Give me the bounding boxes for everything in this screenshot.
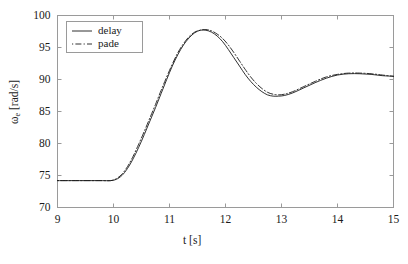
x-tick-label: 9: [45, 214, 71, 226]
y-tick-label: 75: [25, 170, 51, 182]
y-tick-label: 100: [25, 10, 51, 22]
y-tick-label: 70: [25, 202, 51, 214]
x-tick-label: 13: [269, 214, 295, 226]
y-axis-title-symbol: ω: [8, 116, 20, 124]
legend-label-delay: delay: [98, 25, 122, 36]
y-tick-label: 95: [25, 42, 51, 54]
legend-label-pade: pade: [98, 38, 119, 49]
chart-figure: 707580859095100 9101112131415 t [s] ωe […: [0, 0, 408, 264]
x-tick-label: 11: [157, 214, 183, 226]
legend-line-sample-solid: [71, 26, 93, 36]
y-tick-label: 85: [25, 106, 51, 118]
legend: delay pade: [66, 21, 143, 53]
x-tick-label: 15: [381, 214, 407, 226]
x-tick-label: 12: [213, 214, 239, 226]
x-tick-label: 10: [101, 214, 127, 226]
x-tick-label: 14: [325, 214, 351, 226]
y-axis-title-unit: [rad/s]: [8, 80, 20, 113]
y-axis-title-subscript: e: [13, 113, 22, 117]
legend-line-sample-dashdot: [71, 39, 93, 49]
legend-item-delay: delay: [71, 24, 139, 37]
y-tick-label: 90: [25, 74, 51, 86]
y-tick-label: 80: [25, 138, 51, 150]
y-axis-title: ωe [rad/s]: [8, 57, 22, 147]
legend-item-pade: pade: [71, 37, 139, 50]
x-axis-title: t [s]: [183, 234, 201, 246]
